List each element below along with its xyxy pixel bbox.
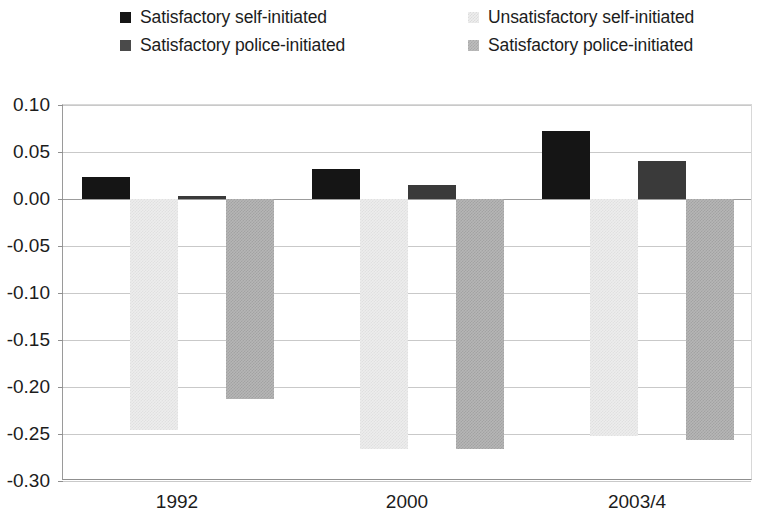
y-axis-tick-mark: [58, 246, 63, 247]
bar: [226, 199, 274, 399]
legend-swatch-icon: [468, 12, 479, 23]
chart-legend: Satisfactory self-initiated Unsatisfacto…: [0, 0, 764, 72]
y-axis-tick-label: -0.30: [0, 471, 50, 490]
y-axis-tick-mark: [58, 199, 63, 200]
y-axis-tick-label: -0.15: [0, 330, 50, 349]
legend-entry-1: Unsatisfactory self-initiated: [468, 4, 694, 30]
y-axis-tick-mark: [58, 434, 63, 435]
legend-label: Satisfactory police-initiated: [140, 35, 345, 55]
bar: [312, 169, 360, 199]
y-axis-tick-mark: [58, 152, 63, 153]
gridline: [63, 105, 751, 106]
legend-swatch-icon: [120, 40, 131, 51]
y-axis-tick-mark: [58, 293, 63, 294]
bar: [130, 199, 178, 430]
bar: [360, 199, 408, 449]
gridline: [63, 152, 751, 153]
y-axis-tick-label: -0.20: [0, 377, 50, 396]
legend-label: Unsatisfactory self-initiated: [488, 7, 694, 27]
legend-swatch-icon: [468, 40, 479, 51]
legend-entry-2: Satisfactory police-initiated: [120, 32, 345, 58]
bar: [542, 131, 590, 199]
bar: [456, 199, 504, 449]
y-axis-tick-label: 0.10: [0, 95, 50, 114]
legend-label: Satisfactory self-initiated: [140, 7, 327, 27]
bar: [686, 199, 734, 440]
bar: [638, 161, 686, 199]
y-axis-tick-label: 0.00: [0, 189, 50, 208]
y-axis-tick-label: 0.05: [0, 142, 50, 161]
y-axis-tick-label: -0.05: [0, 236, 50, 255]
y-axis-tick-mark: [58, 105, 63, 106]
x-axis-tick-label: 1992: [156, 492, 198, 511]
chart-plot-area: [62, 104, 752, 480]
bar: [82, 177, 130, 199]
x-axis-tick-label: 2000: [386, 492, 428, 511]
legend-swatch-icon: [120, 12, 131, 23]
y-axis-tick-label: -0.25: [0, 424, 50, 443]
y-axis-tick-mark: [58, 340, 63, 341]
y-axis-tick-label: -0.10: [0, 283, 50, 302]
legend-entry-0: Satisfactory self-initiated: [120, 4, 327, 30]
legend-entry-3: Satisfactory police-initiated: [468, 32, 693, 58]
gridline: [63, 481, 751, 482]
legend-label: Satisfactory police-initiated: [488, 35, 693, 55]
bar: [590, 199, 638, 436]
bar: [178, 196, 226, 199]
x-axis-tick-label: 2003/4: [608, 492, 666, 511]
bar: [408, 185, 456, 199]
y-axis-tick-mark: [58, 387, 63, 388]
y-axis-tick-mark: [58, 481, 63, 482]
